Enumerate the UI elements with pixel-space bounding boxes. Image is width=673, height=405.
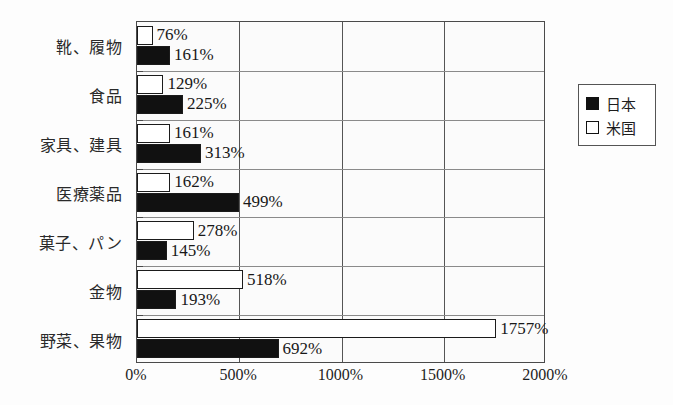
x-axis-tick-labels: 0%500%1000%1500%2000% xyxy=(136,366,545,394)
gridline xyxy=(342,22,343,362)
y-axis-tick xyxy=(137,315,143,316)
x-tick-label-0: 0% xyxy=(125,366,146,384)
bar-value-label: 162% xyxy=(174,172,214,192)
category-separator xyxy=(137,71,544,72)
bar-value-label: 193% xyxy=(180,290,220,310)
y-axis-tick xyxy=(137,71,143,72)
bar-value-label: 161% xyxy=(174,123,214,143)
plot-area: 76%161%129%225%161%313%162%499%278%145%5… xyxy=(136,21,545,363)
gridline xyxy=(444,22,445,362)
bar-us-6 xyxy=(137,319,496,338)
bar-value-label: 499% xyxy=(243,192,283,212)
bar-us-1 xyxy=(137,75,163,94)
category-axis-labels: 靴、履物食品家具、建具医療薬品菓子、パン金物野菜、果物 xyxy=(0,21,128,363)
bar-jp-3 xyxy=(137,193,239,212)
bar-us-2 xyxy=(137,124,170,143)
bar-us-4 xyxy=(137,221,194,240)
x-tick-label-2: 1000% xyxy=(318,366,363,384)
category-separator xyxy=(137,169,544,170)
x-tick-label-4: 2000% xyxy=(522,366,567,384)
legend-label: 米国 xyxy=(606,117,636,138)
category-label-4: 菓子、パン xyxy=(39,230,123,254)
category-label-6: 野菜、果物 xyxy=(40,328,123,352)
bar-jp-1 xyxy=(137,95,183,114)
bar-jp-6 xyxy=(137,339,279,358)
bar-us-0 xyxy=(137,26,153,45)
bar-value-label: 1757% xyxy=(500,319,548,339)
bar-value-label: 225% xyxy=(187,94,227,114)
legend-swatch-us-icon xyxy=(586,121,599,134)
bar-value-label: 145% xyxy=(171,241,211,261)
bar-jp-0 xyxy=(137,46,170,65)
x-tick-label-1: 500% xyxy=(220,366,257,384)
category-separator xyxy=(137,315,544,316)
chart-legend: 日本米国 xyxy=(578,84,656,146)
bar-value-label: 518% xyxy=(247,270,287,290)
category-separator xyxy=(137,120,544,121)
legend-item-us: 米国 xyxy=(586,115,648,139)
y-axis-tick xyxy=(137,169,143,170)
bar-value-label: 278% xyxy=(198,221,238,241)
y-axis-tick xyxy=(137,266,143,267)
bar-value-label: 161% xyxy=(174,45,214,65)
bar-jp-5 xyxy=(137,290,176,309)
bar-us-3 xyxy=(137,173,170,192)
bar-value-label: 692% xyxy=(283,339,323,359)
bar-value-label: 313% xyxy=(205,143,245,163)
y-axis-tick xyxy=(137,217,143,218)
category-label-2: 家具、建具 xyxy=(40,132,123,156)
legend-swatch-jp-icon xyxy=(586,97,599,110)
category-label-1: 食品 xyxy=(89,83,122,107)
y-axis-tick xyxy=(137,120,143,121)
category-separator xyxy=(137,266,544,267)
chart-page: 靴、履物食品家具、建具医療薬品菓子、パン金物野菜、果物 76%161%129%2… xyxy=(0,0,673,405)
legend-label: 日本 xyxy=(606,93,636,114)
gridline xyxy=(239,22,240,362)
bar-jp-4 xyxy=(137,241,167,260)
category-label-5: 金物 xyxy=(89,279,122,303)
bar-jp-2 xyxy=(137,144,201,163)
x-tick-label-3: 1500% xyxy=(420,366,465,384)
bar-value-label: 76% xyxy=(157,25,188,45)
category-label-0: 靴、履物 xyxy=(56,34,122,58)
legend-item-jp: 日本 xyxy=(586,91,648,115)
bar-value-label: 129% xyxy=(167,74,207,94)
category-separator xyxy=(137,217,544,218)
category-label-3: 医療薬品 xyxy=(56,181,122,205)
bar-us-5 xyxy=(137,270,243,289)
